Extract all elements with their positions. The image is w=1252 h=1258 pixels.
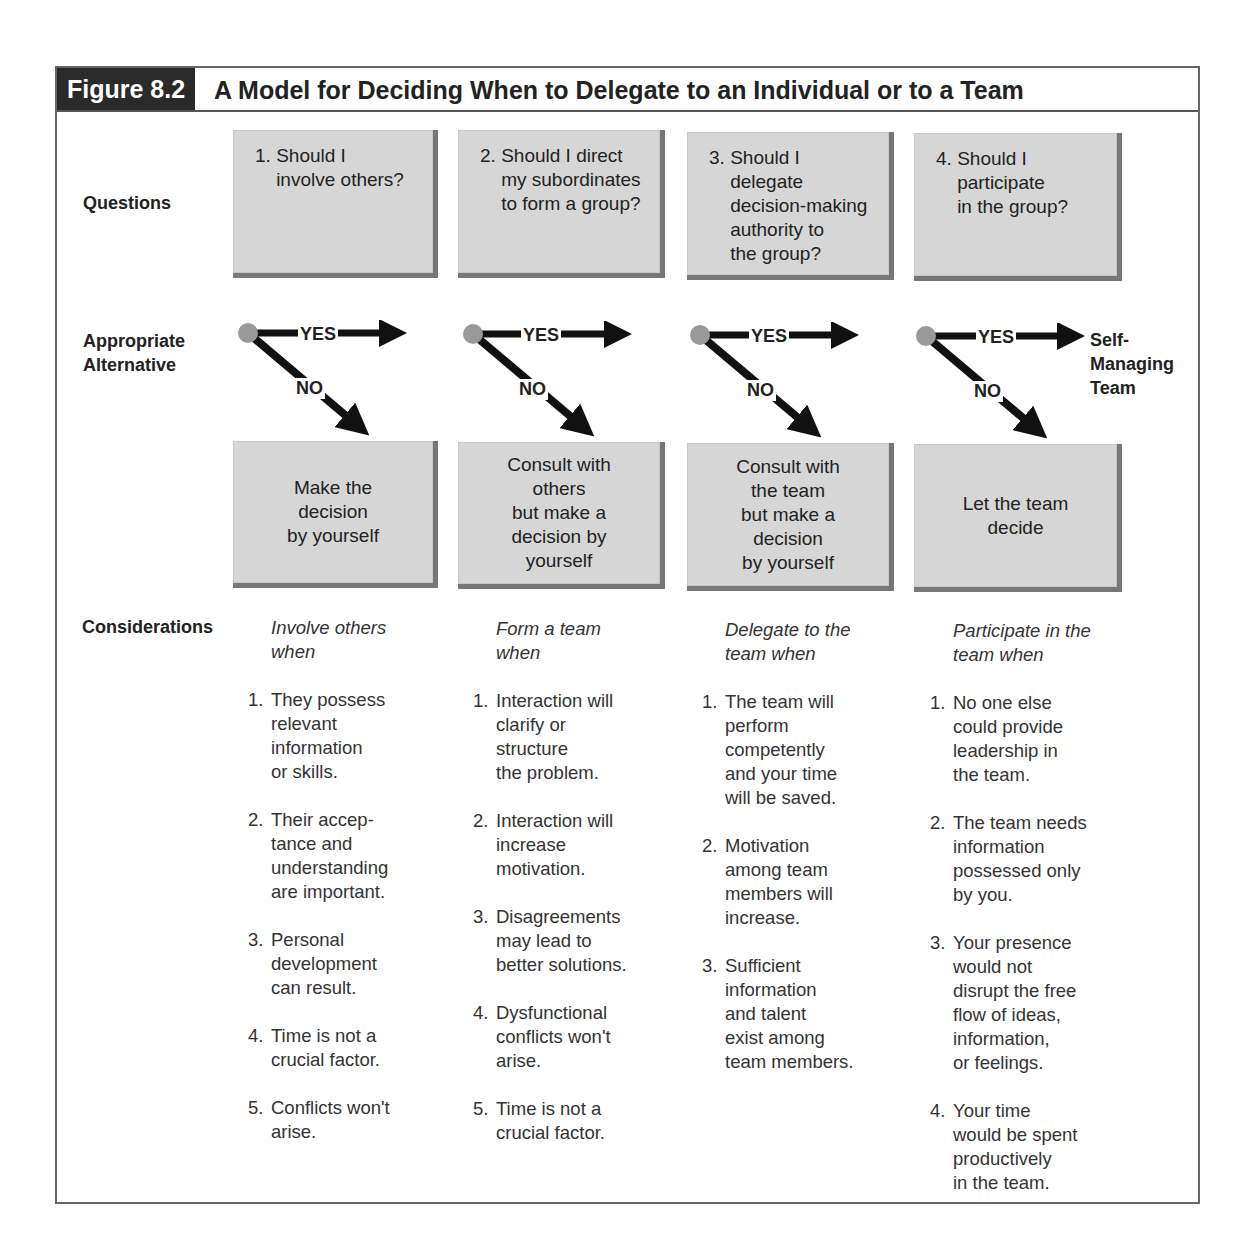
consideration-heading: Delegate to the team when [725, 618, 902, 666]
item-number: 1. [930, 691, 953, 787]
item-number: 1. [248, 688, 271, 784]
item-number: 3. [248, 928, 271, 1000]
question-number: 1. [255, 144, 271, 192]
question-number: 3. [709, 146, 725, 266]
item-number: 3. [930, 931, 953, 1075]
item-number: 5. [248, 1096, 271, 1144]
consideration-item: 2.Their accep- tance and understanding a… [248, 808, 448, 904]
no-label: NO [517, 379, 548, 400]
no-label: NO [745, 380, 776, 401]
item-text: Conflicts won't arise. [271, 1096, 390, 1144]
item-text: Your presence would not disrupt the free… [953, 931, 1076, 1075]
question-number: 2. [480, 144, 496, 216]
decision-arrows-icon [688, 322, 918, 447]
row-label-considerations: Considerations [82, 615, 213, 639]
yes-label: YES [976, 327, 1016, 348]
considerations-column-4: Participate in the team when 1.No one el… [930, 619, 1140, 1219]
item-number: 2. [473, 809, 496, 881]
question-text: Should I direct my subordinates to form … [501, 144, 640, 216]
consideration-item: 1.They possess relevant information or s… [248, 688, 448, 784]
item-text: Interaction will increase motivation. [496, 809, 613, 881]
consideration-item: 4.Your time would be spent productively … [930, 1099, 1140, 1195]
question-number: 4. [936, 147, 952, 219]
item-number: 4. [248, 1024, 271, 1072]
yes-no-flow-1: YES NO [236, 320, 466, 440]
item-text: Personal development can result. [271, 928, 377, 1000]
considerations-column-2: Form a team when 1.Interaction will clar… [473, 617, 673, 1169]
consideration-item: 1.No one else could provide leadership i… [930, 691, 1140, 787]
figure-label: Figure 8.2 [57, 68, 195, 110]
item-number: 4. [473, 1001, 496, 1073]
yes-label: YES [298, 324, 338, 345]
consideration-item: 2.Interaction will increase motivation. [473, 809, 673, 881]
consideration-heading: Form a team when [496, 617, 673, 665]
question-box-1: 1. Should I involve others? [233, 130, 438, 278]
consideration-heading: Participate in the team when [953, 619, 1140, 667]
item-number: 2. [248, 808, 271, 904]
item-text: Time is not a crucial factor. [496, 1097, 605, 1145]
question-box-4: 4. Should I participate in the group? [914, 133, 1122, 281]
consideration-item: 2.The team needs information possessed o… [930, 811, 1140, 907]
consideration-item: 4.Time is not a crucial factor. [248, 1024, 448, 1072]
figure-title: A Model for Deciding When to Delegate to… [214, 68, 1024, 110]
decision-arrows-icon [236, 320, 466, 445]
item-text: They possess relevant information or ski… [271, 688, 385, 784]
item-number: 3. [702, 954, 725, 1074]
question-box-2: 2. Should I direct my subordinates to fo… [458, 130, 665, 278]
alternative-box-3: Consult with the team but make a decisio… [687, 443, 894, 591]
consideration-heading: Involve others when [271, 616, 448, 664]
decision-arrows-icon [461, 321, 691, 446]
alternative-box-1: Make the decision by yourself [233, 441, 438, 588]
item-number: 3. [473, 905, 496, 977]
item-text: The team needs information possessed onl… [953, 811, 1087, 907]
item-text: Your time would be spent productively in… [953, 1099, 1077, 1195]
item-number: 2. [702, 834, 725, 930]
yes-no-flow-2: YES NO [461, 321, 691, 441]
item-number: 2. [930, 811, 953, 907]
consideration-item: 3.Sufficient information and talent exis… [702, 954, 902, 1074]
item-number: 1. [473, 689, 496, 785]
alternative-box-4: Let the team decide [914, 444, 1122, 592]
yes-label: YES [521, 325, 561, 346]
consideration-item: 1.The team will perform competently and … [702, 690, 902, 810]
consideration-item: 5.Conflicts won't arise. [248, 1096, 448, 1144]
item-text: Motivation among team members will incre… [725, 834, 833, 930]
no-label: NO [972, 381, 1003, 402]
consideration-item: 3.Your presence would not disrupt the fr… [930, 931, 1140, 1075]
item-text: Interaction will clarify or structure th… [496, 689, 613, 785]
question-box-3: 3. Should I delegate decision-making aut… [687, 132, 894, 280]
self-managing-team-label: Self- Managing Team [1090, 328, 1174, 400]
question-text: Should I delegate decision-making author… [730, 146, 867, 266]
no-label: NO [294, 378, 325, 399]
consideration-item: 3.Disagreements may lead to better solut… [473, 905, 673, 977]
consideration-item: 1.Interaction will clarify or structure … [473, 689, 673, 785]
item-text: Disagreements may lead to better solutio… [496, 905, 627, 977]
item-number: 1. [702, 690, 725, 810]
yes-label: YES [749, 326, 789, 347]
yes-no-flow-3: YES NO [688, 322, 918, 442]
item-text: Dysfunctional conflicts won't arise. [496, 1001, 611, 1073]
considerations-column-1: Involve others when 1.They possess relev… [248, 616, 448, 1168]
considerations-column-3: Delegate to the team when 1.The team wil… [702, 618, 902, 1098]
item-number: 4. [930, 1099, 953, 1195]
item-text: Their accep- tance and understanding are… [271, 808, 388, 904]
item-text: Time is not a crucial factor. [271, 1024, 380, 1072]
alternative-box-2: Consult with others but make a decision … [458, 442, 665, 589]
consideration-item: 3.Personal development can result. [248, 928, 448, 1000]
consideration-item: 2.Motivation among team members will inc… [702, 834, 902, 930]
consideration-item: 4.Dysfunctional conflicts won't arise. [473, 1001, 673, 1073]
item-text: No one else could provide leadership in … [953, 691, 1063, 787]
row-label-questions: Questions [83, 191, 171, 215]
question-text: Should I participate in the group? [957, 147, 1068, 219]
item-number: 5. [473, 1097, 496, 1145]
question-text: Should I involve others? [276, 144, 404, 192]
consideration-item: 5.Time is not a crucial factor. [473, 1097, 673, 1145]
title-divider [57, 110, 1198, 112]
row-label-alternative: Appropriate Alternative [83, 329, 185, 377]
item-text: The team will perform competently and yo… [725, 690, 837, 810]
item-text: Sufficient information and talent exist … [725, 954, 854, 1074]
